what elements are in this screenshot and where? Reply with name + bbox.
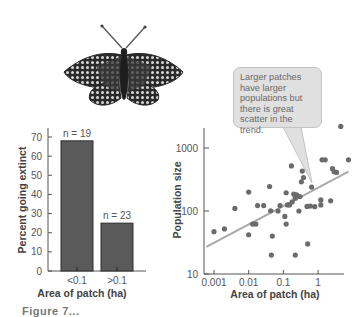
data-point (282, 214, 287, 219)
data-point (293, 252, 298, 257)
bar-y-axis-title: Percent going extinct (16, 146, 28, 253)
data-point (246, 189, 251, 194)
annotation-callout: Larger patches have larger populations b… (233, 67, 322, 128)
data-point (275, 208, 280, 213)
bar-y-tick-label: 0 (36, 266, 42, 277)
scatter-y-tick-label: 1000 (176, 143, 199, 154)
data-point (297, 194, 302, 199)
data-point (261, 203, 266, 208)
data-point (318, 202, 323, 207)
bar-chart: 010203040506070n = 19<0.1n = 23>0.1Area … (16, 128, 146, 299)
figure-caption-truncated: Figure 7... (22, 305, 79, 317)
scatter-x-tick-label: 1 (315, 277, 321, 288)
data-point (246, 232, 251, 237)
data-point (289, 163, 294, 168)
scatter-x-axis-title: Area of patch (ha) (230, 288, 319, 300)
bar (101, 223, 133, 271)
bar-y-tick-label: 20 (31, 227, 43, 238)
bar-y-tick-label: 30 (31, 208, 43, 219)
data-point (305, 241, 310, 246)
data-point (338, 124, 343, 129)
callout-line: Larger patches (240, 72, 315, 83)
callout-line: have larger (240, 83, 315, 94)
scatter-y-tick-label: 10 (187, 269, 199, 280)
data-point (253, 221, 258, 226)
data-point (232, 206, 237, 211)
data-point (312, 204, 317, 209)
bar-y-tick-label: 50 (31, 170, 43, 181)
scatter-x-tick-label: 0.01 (239, 277, 259, 288)
data-point (269, 252, 274, 257)
data-point (308, 203, 313, 208)
bar-y-tick-label: 40 (31, 189, 43, 200)
bar-category-label: >0.1 (107, 275, 127, 286)
bar-y-tick-label: 10 (31, 246, 43, 257)
data-point (222, 226, 227, 231)
data-point (301, 175, 306, 180)
data-point (267, 184, 272, 189)
bar-x-axis-title: Area of patch (ha) (37, 287, 126, 299)
data-point (284, 221, 289, 226)
data-point (296, 208, 301, 213)
callout-line: scatter in the trend. (240, 114, 315, 135)
data-point (346, 157, 351, 162)
bar-category-label: <0.1 (67, 275, 87, 286)
data-point (255, 203, 260, 208)
callout-line: populations but (240, 93, 315, 104)
data-point (328, 198, 333, 203)
data-point (268, 208, 273, 213)
data-point (323, 157, 328, 162)
data-point (270, 233, 275, 238)
scatter-x-tick-label: 0.1 (276, 277, 290, 288)
scatter-x-tick-label: 0.001 (201, 277, 226, 288)
data-point (277, 203, 282, 208)
bar-n-label: n = 23 (103, 210, 132, 221)
bar-y-tick-label: 70 (31, 132, 43, 143)
callout-line: there is great (240, 104, 315, 115)
data-point (309, 184, 314, 189)
scatter-y-tick-label: 100 (181, 206, 198, 217)
butterfly-icon (64, 24, 183, 105)
bar-n-label: n = 19 (63, 128, 92, 139)
scatter-y-axis-title: Population size (171, 161, 183, 238)
data-point (318, 197, 323, 202)
data-point (284, 190, 289, 195)
data-point (334, 170, 339, 175)
data-point (211, 229, 216, 234)
data-point (300, 168, 305, 173)
scatter-chart: 1010010000.0010.010.11Area of patch (ha)… (171, 124, 351, 300)
bar-y-tick-label: 60 (31, 151, 43, 162)
bar (61, 141, 93, 271)
